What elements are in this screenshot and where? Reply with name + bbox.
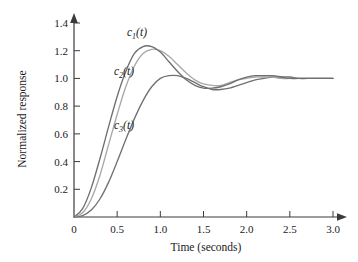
y-axis-title: Normalized response <box>16 70 29 167</box>
y-tick-label-0.6: 0.6 <box>54 128 68 140</box>
x-tick-label-2.0: 2.0 <box>240 223 254 235</box>
y-tick-label-0.4: 0.4 <box>54 156 68 168</box>
x-tick-label-0: 0 <box>71 223 77 235</box>
x-tick-label-0.5: 0.5 <box>110 223 124 235</box>
y-tick-label-1.2: 1.2 <box>54 45 68 57</box>
step-response-chart: 0.2 0.4 0.6 0.8 1.0 1.2 1.4 0 0.5 1.0 1.… <box>0 0 358 262</box>
y-tick-label-1.4: 1.4 <box>54 17 68 29</box>
x-tick-label-2.5: 2.5 <box>283 223 297 235</box>
x-tick-label-1.0: 1.0 <box>153 223 167 235</box>
x-tick-label-3.0: 3.0 <box>326 223 340 235</box>
y-tick-label-0.2: 0.2 <box>54 183 68 195</box>
x-tick-label-1.5: 1.5 <box>197 223 211 235</box>
x-axis-title: Time (seconds) <box>171 241 242 254</box>
chart-figure: 0.2 0.4 0.6 0.8 1.0 1.2 1.4 0 0.5 1.0 1.… <box>0 0 358 262</box>
y-tick-label-1.0: 1.0 <box>54 72 68 84</box>
y-tick-label-0.8: 0.8 <box>54 100 68 112</box>
